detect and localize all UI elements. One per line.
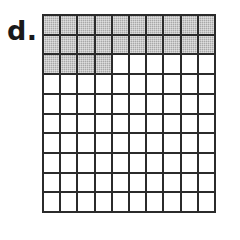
grid-cell-empty <box>44 193 59 211</box>
grid-cell-empty <box>130 75 145 93</box>
grid-cell-empty <box>61 115 76 133</box>
grid-cell-empty <box>164 174 179 192</box>
grid-cell-empty <box>44 115 59 133</box>
grid-cell-shaded <box>44 16 59 34</box>
grid-cell-empty <box>96 75 111 93</box>
grid-cell-empty <box>182 55 197 73</box>
grid-cell-shaded <box>130 16 145 34</box>
grid-cell-empty <box>130 134 145 152</box>
grid-cell-empty <box>113 154 128 172</box>
grid-cell-empty <box>61 95 76 113</box>
grid-cell-empty <box>164 154 179 172</box>
grid-cell-empty <box>130 115 145 133</box>
grid-cell-empty <box>199 174 214 192</box>
grid-cell-empty <box>147 115 162 133</box>
grid-cell-empty <box>147 95 162 113</box>
grid-cell-shaded <box>130 36 145 54</box>
grid-cell-empty <box>182 193 197 211</box>
grid-cell-empty <box>130 95 145 113</box>
grid-cell-empty <box>164 193 179 211</box>
grid-cell-empty <box>182 154 197 172</box>
grid-cell-empty <box>113 134 128 152</box>
grid-cell-empty <box>199 55 214 73</box>
grid-cell-empty <box>113 115 128 133</box>
grid-cell-empty <box>61 75 76 93</box>
hundred-grid <box>42 14 216 213</box>
grid-cell-shaded <box>96 55 111 73</box>
grid-cell-empty <box>44 95 59 113</box>
grid-cell-shaded <box>113 36 128 54</box>
grid-cell-empty <box>199 75 214 93</box>
grid-cell-empty <box>61 134 76 152</box>
grid-cell-shaded <box>164 36 179 54</box>
grid-cell-empty <box>78 134 93 152</box>
grid-cell-shaded <box>164 16 179 34</box>
grid-cell-empty <box>44 174 59 192</box>
grid-cell-shaded <box>113 16 128 34</box>
grid-cell-empty <box>147 75 162 93</box>
grid-cell-empty <box>199 115 214 133</box>
item-label: d. <box>7 14 39 48</box>
grid-cell-shaded <box>199 16 214 34</box>
grid-cell-empty <box>96 115 111 133</box>
grid-cell-empty <box>78 174 93 192</box>
grid-cell-empty <box>182 134 197 152</box>
grid-cell-shaded <box>147 36 162 54</box>
grid-cell-empty <box>130 193 145 211</box>
grid-cell-empty <box>78 115 93 133</box>
grid-cell-empty <box>147 134 162 152</box>
grid-cell-empty <box>61 193 76 211</box>
grid-cell-empty <box>182 75 197 93</box>
grid-cell-empty <box>96 154 111 172</box>
grid-cell-empty <box>96 134 111 152</box>
grid-cell-shaded <box>78 36 93 54</box>
grid-cell-empty <box>164 75 179 93</box>
grid-cell-empty <box>44 134 59 152</box>
grid-cell-empty <box>113 75 128 93</box>
grid-cell-empty <box>61 174 76 192</box>
grid-cell-empty <box>164 134 179 152</box>
grid-cell-shaded <box>199 36 214 54</box>
grid-cell-empty <box>199 95 214 113</box>
grid-cell-empty <box>182 95 197 113</box>
grid-cell-shaded <box>182 16 197 34</box>
grid-cell-empty <box>147 193 162 211</box>
grid-cell-shaded <box>61 16 76 34</box>
hundred-grid-container <box>42 14 216 213</box>
grid-cell-shaded <box>44 55 59 73</box>
grid-cell-empty <box>113 193 128 211</box>
grid-cell-empty <box>44 75 59 93</box>
grid-cell-empty <box>96 95 111 113</box>
grid-cell-empty <box>96 193 111 211</box>
grid-cell-empty <box>113 95 128 113</box>
grid-cell-empty <box>78 75 93 93</box>
grid-cell-empty <box>199 134 214 152</box>
grid-cell-shaded <box>182 36 197 54</box>
grid-cell-empty <box>44 154 59 172</box>
grid-cell-empty <box>113 55 128 73</box>
grid-cell-empty <box>147 174 162 192</box>
grid-cell-empty <box>130 174 145 192</box>
grid-cell-empty <box>78 154 93 172</box>
grid-cell-empty <box>78 193 93 211</box>
grid-cell-empty <box>199 154 214 172</box>
grid-cell-empty <box>96 174 111 192</box>
grid-cell-empty <box>182 115 197 133</box>
grid-cell-empty <box>61 154 76 172</box>
grid-cell-shaded <box>61 55 76 73</box>
grid-cell-empty <box>147 154 162 172</box>
grid-cell-shaded <box>78 55 93 73</box>
hundred-grid-figure: d. <box>0 0 240 240</box>
grid-cell-empty <box>130 154 145 172</box>
grid-cell-empty <box>147 55 162 73</box>
grid-cell-empty <box>182 174 197 192</box>
grid-cell-shaded <box>96 36 111 54</box>
grid-cell-shaded <box>44 36 59 54</box>
grid-cell-shaded <box>78 16 93 34</box>
grid-cell-empty <box>164 115 179 133</box>
grid-cell-shaded <box>96 16 111 34</box>
grid-cell-empty <box>113 174 128 192</box>
grid-cell-shaded <box>61 36 76 54</box>
grid-cell-empty <box>164 95 179 113</box>
grid-cell-empty <box>164 55 179 73</box>
